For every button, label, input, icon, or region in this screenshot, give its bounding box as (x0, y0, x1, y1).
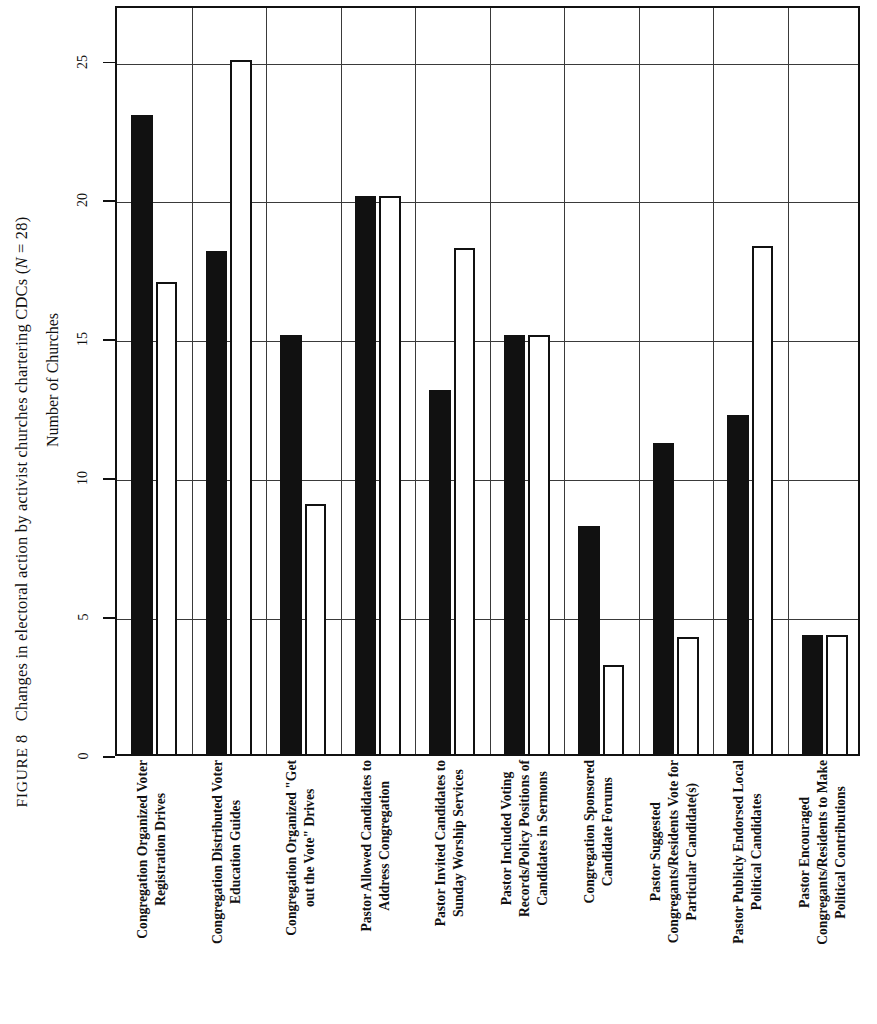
tick-label-15: 15 (70, 330, 96, 348)
bar-hollow-2 (305, 504, 326, 754)
bar-filled-0 (131, 115, 152, 754)
plot-area (115, 6, 860, 756)
gridline-25 (117, 64, 858, 65)
category-label-line-1: Pastor Included Voting (498, 760, 516, 917)
category-label-line-1: Congregation Organized "Get (283, 760, 301, 936)
category-separator-2 (266, 8, 267, 754)
category-label-line-2: Education Guides (227, 760, 245, 944)
category-label-line-2: Political Candidates (748, 760, 766, 944)
category-label-line-2: Address Congregation (376, 760, 394, 932)
category-label-line-1: Congregation Distributed Voter (209, 760, 227, 944)
category-label-text: Pastor Invited Candidates toSunday Worsh… (432, 760, 468, 926)
tick-label-text: 0 (74, 753, 92, 760)
category-label-line-2: out the Vote" Drives (301, 760, 319, 936)
category-separator-8 (713, 8, 714, 754)
category-label-line-3: Particular Candidate(s) (683, 760, 701, 943)
tick-label-text: 5 (74, 614, 92, 621)
tick-label-25: 25 (70, 53, 96, 71)
tick-mark-10 (103, 478, 115, 480)
category-label-line-2: Congregants/Residents to Make (814, 760, 832, 945)
bar-filled-1 (206, 251, 227, 754)
category-label-line-3: Candidates in Sermons (534, 760, 552, 917)
gridline-15 (117, 341, 858, 342)
category-separator-1 (192, 8, 193, 754)
tick-mark-25 (103, 62, 115, 64)
category-axis-labels: Congregation Organized VoterRegistration… (115, 760, 860, 1022)
tick-label-text: 25 (74, 55, 92, 69)
category-label-line-1: Congregation Sponsored (581, 760, 599, 903)
category-label-line-2: Records/Policy Positions of (516, 760, 534, 917)
bar-hollow-5 (528, 335, 549, 754)
tick-mark-5 (103, 617, 115, 619)
figure-caption-text: Changes in electoral action by activist … (12, 269, 31, 722)
category-label-line-1: Pastor Suggested (647, 760, 665, 943)
bar-hollow-1 (230, 60, 251, 754)
category-label-line-2: Registration Drives (152, 760, 170, 939)
figure-number: 8 (12, 734, 31, 742)
category-separator-6 (564, 8, 565, 754)
bar-filled-4 (429, 390, 450, 754)
category-label-line-1: Pastor Encouraged (796, 760, 814, 945)
tick-mark-15 (103, 339, 115, 341)
tick-label-0: 0 (70, 747, 96, 765)
bar-hollow-7 (677, 637, 698, 754)
bar-hollow-8 (752, 246, 773, 754)
category-label-text: Congregation Organized "Getout the Vote"… (283, 760, 319, 936)
category-separator-5 (490, 8, 491, 754)
tick-label-text: 15 (74, 332, 92, 346)
tick-label-text: 20 (74, 193, 92, 207)
figure-page: FIGURE 8 Changes in electoral action by … (0, 0, 877, 1024)
category-label-text: Pastor Allowed Candidates toAddress Cong… (358, 760, 394, 932)
category-label-6: Congregation SponsoredCandidate Forums (562, 760, 637, 1022)
category-label-3: Pastor Allowed Candidates toAddress Cong… (339, 760, 414, 1022)
bar-filled-5 (504, 335, 525, 754)
figure-label-word: FIGURE (13, 747, 30, 807)
bar-filled-3 (355, 196, 376, 754)
category-label-text: Congregation SponsoredCandidate Forums (581, 760, 617, 903)
tick-label-20: 20 (70, 191, 96, 209)
tick-label-5: 5 (70, 608, 96, 626)
category-label-9: Pastor EncouragedCongregants/Residents t… (786, 760, 861, 1022)
figure-caption-n-symbol: N (12, 257, 31, 268)
figure-caption: FIGURE 8 Changes in electoral action by … (12, 217, 32, 808)
category-label-line-1: Pastor Allowed Candidates to (358, 760, 376, 932)
category-label-text: Congregation Organized VoterRegistration… (134, 760, 170, 939)
category-label-7: Pastor SuggestedCongregants/Residents Vo… (637, 760, 712, 1022)
bar-filled-2 (280, 335, 301, 754)
category-label-line-3: Political Contributions (832, 760, 850, 945)
category-label-4: Pastor Invited Candidates toSunday Worsh… (413, 760, 488, 1022)
category-label-line-2: Congregants/Residents Vote for (665, 760, 683, 943)
category-label-text: Pastor SuggestedCongregants/Residents Vo… (647, 760, 701, 943)
category-label-line-2: Sunday Worship Services (450, 760, 468, 926)
tick-mark-0 (103, 756, 115, 758)
category-label-text: Congregation Distributed VoterEducation … (209, 760, 245, 944)
bar-filled-9 (802, 635, 823, 754)
bar-hollow-4 (454, 248, 475, 754)
gridline-20 (117, 202, 858, 203)
value-axis-title: Number of Churches (44, 313, 62, 447)
bar-hollow-3 (379, 196, 400, 754)
tick-mark-20 (103, 200, 115, 202)
tick-label-text: 10 (74, 471, 92, 485)
bar-hollow-9 (826, 635, 847, 754)
category-label-1: Congregation Distributed VoterEducation … (190, 760, 265, 1022)
bar-filled-8 (727, 415, 748, 754)
bar-hollow-6 (603, 665, 624, 754)
category-label-text: Pastor Publicly Endorsed LocalPolitical … (730, 760, 766, 944)
category-label-5: Pastor Included VotingRecords/Policy Pos… (488, 760, 563, 1022)
figure-caption-n-value: = 28) (12, 217, 31, 258)
category-separator-3 (341, 8, 342, 754)
category-separator-4 (415, 8, 416, 754)
category-label-text: Pastor EncouragedCongregants/Residents t… (796, 760, 850, 945)
category-separator-9 (788, 8, 789, 754)
category-label-line-1: Pastor Invited Candidates to (432, 760, 450, 926)
bar-filled-6 (578, 526, 599, 754)
category-label-2: Congregation Organized "Getout the Vote"… (264, 760, 339, 1022)
bar-hollow-0 (156, 282, 177, 754)
tick-label-10: 10 (70, 469, 96, 487)
category-label-line-2: Candidate Forums (599, 760, 617, 903)
category-label-0: Congregation Organized VoterRegistration… (115, 760, 190, 1022)
category-separator-7 (639, 8, 640, 754)
category-label-8: Pastor Publicly Endorsed LocalPolitical … (711, 760, 786, 1022)
bar-filled-7 (653, 443, 674, 754)
